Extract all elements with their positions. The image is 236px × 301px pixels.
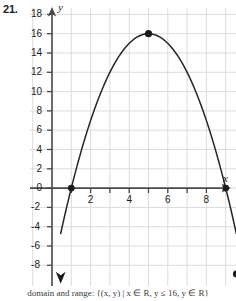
x-tick-label-2: 2 [81, 194, 101, 205]
left-end-arrow-icon [56, 272, 66, 284]
parabola-curve [0, 0, 236, 274]
y-tick-label-16: 16 [16, 28, 42, 39]
textbook-figure: 21. [0, 0, 236, 301]
graph-plot-area: y x 18 16 14 12 10 8 6 4 2 0 -2 -4 -6 -8… [0, 0, 236, 286]
y-tick-label-4: 4 [16, 144, 42, 155]
y-tick-label-8: 8 [16, 105, 42, 116]
y-tick-label-minus4: -4 [14, 221, 40, 232]
grid-lines [30, 8, 236, 286]
y-tick-label-14: 14 [16, 47, 42, 58]
y-axis [47, 7, 56, 286]
y-tick-label-minus2: -2 [14, 201, 40, 212]
x-tick-label-4: 4 [119, 194, 139, 205]
y-tick-label-minus8: -8 [14, 259, 40, 270]
x-tick-label-8: 8 [196, 194, 216, 205]
y-tick-label-minus6: -6 [14, 240, 40, 251]
y-tick-label-0: 0 [16, 182, 42, 193]
x-axis-label: x [223, 172, 228, 184]
x-intercept-right-dot [222, 185, 229, 192]
y-tick-label-12: 12 [16, 66, 42, 77]
y-tick-label-6: 6 [16, 124, 42, 135]
x-intercept-left-dot [68, 185, 75, 192]
vertex-dot [145, 30, 152, 37]
y-tick-label-10: 10 [16, 86, 42, 97]
figure-caption: domain and range: {(x, y) | x ∈ R, y ≤ 1… [0, 288, 236, 298]
y-tick-label-2: 2 [16, 163, 42, 174]
right-endpoint-dot [233, 271, 236, 278]
y-axis-label: y [58, 1, 63, 13]
x-axis [30, 184, 231, 193]
x-tick-label-6: 6 [158, 194, 178, 205]
y-tick-label-18: 18 [16, 8, 42, 19]
